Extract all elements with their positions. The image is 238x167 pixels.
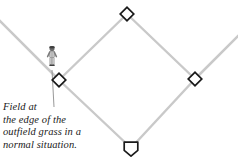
right-foul-line bbox=[195, 31, 238, 79]
baseline-first-to-second bbox=[127, 14, 195, 79]
baseball-field-diagram: Field at the edge of the outfield grass … bbox=[0, 0, 238, 167]
fielder-figure bbox=[48, 46, 57, 66]
baseline-home-to-first bbox=[131, 79, 195, 148]
baseline-second-to-third bbox=[59, 14, 127, 80]
caption-line-4: normal situation. bbox=[3, 139, 107, 152]
caption-line-1: Field at bbox=[3, 101, 107, 114]
caption: Field at the edge of the outfield grass … bbox=[3, 101, 107, 151]
caption-line-3: outfield grass in a bbox=[3, 126, 107, 139]
home-plate bbox=[124, 142, 138, 156]
caption-line-2: the edge of the bbox=[3, 114, 107, 127]
